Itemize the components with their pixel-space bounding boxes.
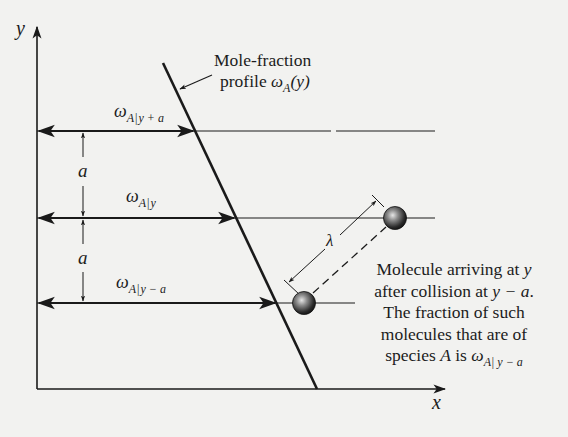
omega-symbol: ω bbox=[116, 272, 129, 292]
omega-symbol: ω bbox=[271, 72, 283, 91]
caption-line-5: species A is ωA| y − a bbox=[352, 345, 556, 374]
mole-fraction-profile-line bbox=[163, 63, 317, 389]
omega-label-y-plus-a: ωA|y + a bbox=[114, 102, 164, 124]
position-subscript: y + a bbox=[138, 111, 163, 125]
omega-subscript: A| y − a bbox=[484, 355, 523, 369]
caption-punct: . bbox=[529, 281, 533, 301]
molecule-at-y-minus-a bbox=[293, 292, 316, 315]
caption-var: y bbox=[524, 259, 532, 279]
position-subscript: y bbox=[150, 196, 155, 210]
figure-canvas: y x Mole-fraction profile ωA(y) ωA|y + a… bbox=[0, 0, 568, 437]
caption-line-1: Molecule arriving at y bbox=[352, 259, 556, 281]
caption-text: after collision at bbox=[374, 281, 492, 301]
omega-symbol: ω bbox=[126, 186, 139, 206]
spacing-label-upper: a bbox=[78, 161, 88, 180]
caption-text: species bbox=[385, 345, 440, 365]
spacing-label-lower: a bbox=[78, 248, 88, 267]
molecule-at-y bbox=[384, 207, 407, 230]
profile-label-line2: profile ωA(y) bbox=[214, 71, 311, 99]
omega-symbol: ω bbox=[114, 101, 127, 121]
molecule-caption: Molecule arriving at y after collision a… bbox=[352, 259, 556, 374]
caption-line-3: The fraction of such bbox=[352, 302, 556, 324]
species-subscript: A bbox=[139, 196, 146, 210]
y-axis-label: y bbox=[16, 18, 25, 38]
caption-var: A bbox=[440, 345, 451, 365]
profile-leader-arrow bbox=[180, 75, 212, 89]
caption-text: Molecule arriving at bbox=[376, 259, 523, 279]
profile-label-text: profile bbox=[220, 71, 271, 91]
caption-text: is bbox=[451, 345, 471, 365]
mean-free-path-label: λ bbox=[326, 232, 333, 249]
omega-label-y-minus-a: ωA|y − a bbox=[116, 273, 166, 295]
species-subscript: A bbox=[129, 282, 136, 296]
x-axis-label: x bbox=[432, 392, 441, 412]
omega-symbol: ω bbox=[471, 345, 483, 365]
profile-label-line1: Mole-fraction bbox=[214, 50, 311, 71]
caption-line-4: molecules that are of bbox=[352, 324, 556, 346]
caption-line-2: after collision at y − a. bbox=[352, 281, 556, 303]
species-subscript: A bbox=[127, 111, 134, 125]
profile-label: Mole-fraction profile ωA(y) bbox=[214, 50, 311, 99]
caption-var: y − a bbox=[492, 281, 529, 301]
profile-omega-symbol: ωA bbox=[271, 72, 290, 91]
position-subscript: y − a bbox=[140, 282, 165, 296]
profile-arg: (y) bbox=[290, 71, 309, 91]
omega-label-y: ωA|y bbox=[126, 187, 156, 209]
